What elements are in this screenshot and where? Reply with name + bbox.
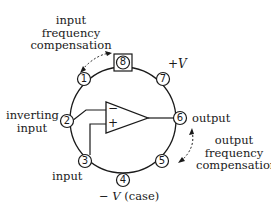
pin-5-number: 5 (157, 155, 167, 168)
minus-sign: − (108, 102, 118, 115)
pin-3-number: 3 (80, 155, 90, 168)
pin-7-number: 7 (158, 73, 168, 86)
output-freq-comp-label: output frequency compensation (196, 134, 271, 172)
pin-8-number: 8 (118, 56, 128, 69)
output-comp-arrow-icon (181, 131, 193, 161)
noninverting-input-label: input (52, 170, 82, 183)
pin-4-number: 4 (118, 174, 128, 187)
pin-2-number: 2 (62, 115, 72, 128)
pin-1-number: 1 (79, 73, 89, 86)
input-freq-comp-label: input frequency compensation (28, 14, 114, 52)
plus-v-label: +V (168, 58, 187, 71)
minus-v-case-label: − V (case) (99, 190, 159, 203)
plus-sign: + (108, 117, 118, 130)
inverting-input-wire (72, 110, 106, 121)
input-comp-arrow-icon (82, 53, 110, 70)
inverting-input-label: inverting input (6, 109, 58, 134)
pin-6-number: 6 (175, 112, 185, 125)
output-label: output (192, 112, 230, 125)
arrowhead-icon (189, 128, 194, 135)
noninverting-input-wire (90, 124, 106, 155)
